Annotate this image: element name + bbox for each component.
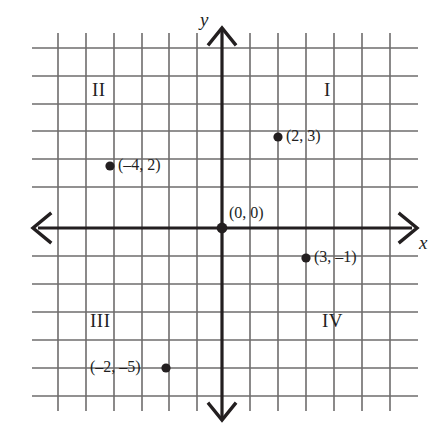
point-label-neg4-2: (–4, 2) <box>118 157 161 173</box>
quadrant-label-ii: II <box>92 80 106 99</box>
point-label-3-neg1: (3, –1) <box>314 249 357 265</box>
point-label-origin: (0, 0) <box>229 205 264 221</box>
coordinate-plane-canvas <box>0 0 447 445</box>
plotted-point-origin <box>217 223 228 234</box>
plotted-point-2-3 <box>273 132 282 141</box>
x-axis-label: x <box>419 233 427 252</box>
coordinate-plane-figure: I II III IV (0, 0) (2, 3) (–4, 2) (3, –1… <box>0 0 447 445</box>
quadrant-label-iii: III <box>90 311 110 330</box>
y-axis-label: y <box>200 10 208 29</box>
plotted-point-neg2-neg5 <box>161 363 170 372</box>
quadrant-label-iv: IV <box>322 311 343 330</box>
quadrant-label-i: I <box>324 80 331 99</box>
point-label-2-3: (2, 3) <box>286 128 321 144</box>
plotted-point-neg4-2 <box>105 161 114 170</box>
grid-lines <box>32 33 418 411</box>
plotted-point-3-neg1 <box>301 253 310 262</box>
point-label-neg2-neg5: (–2, –5) <box>90 359 141 375</box>
